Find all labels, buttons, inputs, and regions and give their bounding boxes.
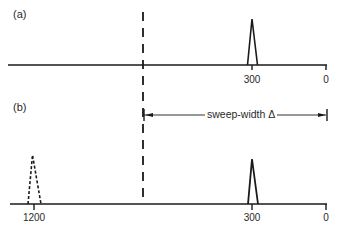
- panel-a-label: (a): [13, 9, 26, 20]
- axis-b-label-300: 300: [244, 213, 261, 223]
- arrowhead-left-icon: [145, 113, 153, 117]
- peak-a-300: [248, 19, 258, 65]
- axis-b-label-1200: 1200: [23, 213, 45, 223]
- peak-b-1200-dotted: [28, 155, 41, 204]
- panel-b-label: (b): [13, 102, 26, 113]
- spectrum-diagram: [0, 0, 337, 229]
- axis-a-label-0: 0: [323, 75, 329, 85]
- sweep-width-label: sweep-width Δ: [205, 109, 277, 120]
- peak-b-300: [248, 159, 258, 204]
- axis-a-label-300: 300: [244, 75, 261, 85]
- axis-b-label-0: 0: [323, 213, 329, 223]
- arrowhead-right-icon: [318, 113, 326, 117]
